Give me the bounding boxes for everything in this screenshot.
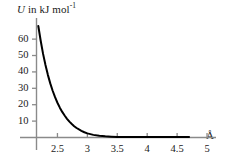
y-axis-tick-label: 30 bbox=[0, 83, 29, 94]
potential-curve bbox=[38, 26, 189, 137]
y-axis-tick-label: 20 bbox=[0, 99, 29, 110]
x-axis-tick-label: 3.5 bbox=[102, 144, 132, 155]
x-axis-tick-label: 5 bbox=[192, 144, 222, 155]
potential-energy-chart: U in kJ mol-1 Å 2.533.544.55 10203040506… bbox=[0, 0, 226, 166]
x-axis-tick-label: 4.5 bbox=[162, 144, 192, 155]
x-axis-tick-label: 3 bbox=[72, 144, 102, 155]
plot-canvas bbox=[0, 0, 226, 166]
y-axis-tick-label: 60 bbox=[0, 34, 29, 45]
axes-group bbox=[20, 18, 216, 150]
x-axis-tick-label: 4 bbox=[132, 144, 162, 155]
y-axis-tick-label: 10 bbox=[0, 116, 29, 127]
y-axis-tick-label: 40 bbox=[0, 66, 29, 77]
y-axis-tick-label: 50 bbox=[0, 50, 29, 61]
x-axis-tick-label: 2.5 bbox=[42, 144, 72, 155]
